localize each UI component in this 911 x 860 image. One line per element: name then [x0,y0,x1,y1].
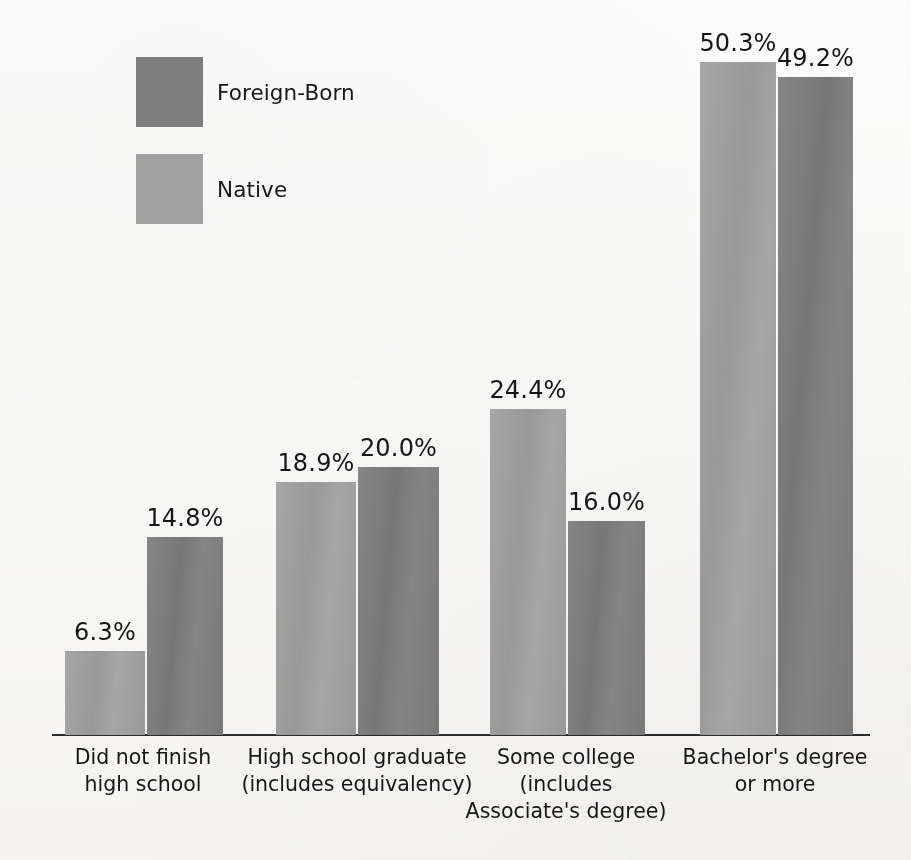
bar-value-label-native-group-4: 50.3% [699,29,776,57]
bar-foreign-born-group-1 [147,537,223,735]
category-label-4: Bachelor's degreeor more [645,744,905,798]
category-label-line: Associate's degree) [426,798,706,825]
bar-value-label-native-group-2: 18.9% [277,449,354,477]
bar-value-label-foreign-born-group-2: 20.0% [360,434,437,462]
bar-native-group-1 [65,651,145,735]
plot-area: 6.3%18.9%24.4%50.3%14.8%20.0%16.0%49.2%D… [0,0,911,860]
bar-value-label-foreign-born-group-1: 14.8% [146,504,223,532]
bar-foreign-born-group-3 [568,521,645,735]
bar-foreign-born-group-2 [358,467,439,735]
category-label-line: Bachelor's degree [645,744,905,771]
bar-value-label-native-group-3: 24.4% [489,376,566,404]
category-label-line: or more [645,771,905,798]
bar-native-group-2 [276,482,356,735]
bar-value-label-native-group-1: 6.3% [74,618,136,646]
bar-foreign-born-group-4 [778,77,853,735]
bar-native-group-4 [700,62,776,735]
bar-native-group-3 [490,409,566,735]
chart-page: Foreign-Born Native 6.3%18.9%24.4%50.3%1… [0,0,911,860]
bar-value-label-foreign-born-group-3: 16.0% [568,488,645,516]
bar-value-label-foreign-born-group-4: 49.2% [777,44,854,72]
